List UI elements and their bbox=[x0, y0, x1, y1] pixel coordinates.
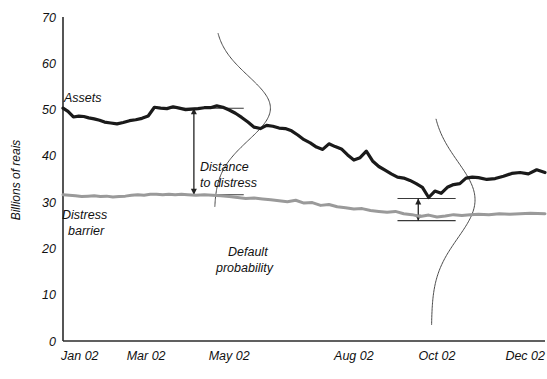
x-tick-labels: Jan 02Mar 02May 02Aug 02Oct 02Dec 02 bbox=[60, 349, 545, 363]
default-probability-label-line2: probability bbox=[215, 261, 274, 275]
y-tick-label: 50 bbox=[42, 103, 56, 117]
x-tick-label: Jan 02 bbox=[60, 349, 99, 363]
y-tick-labels: 010203040506070 bbox=[41, 11, 56, 349]
distance-to-distress-label-line1: Distance bbox=[200, 160, 249, 174]
y-tick-label: 40 bbox=[42, 149, 56, 163]
assets-label: Assets bbox=[63, 91, 102, 105]
x-tick-label: Dec 02 bbox=[505, 349, 545, 363]
y-tick-label: 20 bbox=[41, 242, 56, 256]
axes-group bbox=[63, 17, 545, 341]
y-tick-label: 30 bbox=[42, 196, 56, 210]
chart-container: 010203040506070 Jan 02Mar 02May 02Aug 02… bbox=[0, 0, 547, 379]
y-tick-label: 70 bbox=[42, 11, 56, 25]
y-tick-label: 0 bbox=[49, 335, 56, 349]
data-series bbox=[63, 106, 545, 217]
x-tick-label: Mar 02 bbox=[127, 349, 166, 363]
x-tick-label: Aug 02 bbox=[333, 349, 374, 363]
distress-barrier-label-line2: barrier bbox=[68, 224, 105, 238]
distance-to-distress-label-line2: to distress bbox=[200, 176, 257, 190]
distance-marker-oct-arrow-head-up bbox=[415, 198, 421, 204]
y-tick-label: 10 bbox=[42, 288, 56, 302]
y-axis-title: Billions of reais bbox=[9, 140, 23, 221]
x-tick-label: Oct 02 bbox=[419, 349, 456, 363]
distress-barrier-label-line1: Distress bbox=[62, 208, 107, 222]
distribution-oct bbox=[432, 119, 475, 325]
series-line-assets bbox=[63, 106, 545, 198]
chart-svg: 010203040506070 Jan 02Mar 02May 02Aug 02… bbox=[0, 0, 547, 379]
x-tick-label: May 02 bbox=[209, 349, 250, 363]
default-probability-label-line1: Default bbox=[228, 245, 268, 259]
y-tick-label: 60 bbox=[42, 57, 56, 71]
series-line-distress-barrier bbox=[63, 194, 545, 217]
